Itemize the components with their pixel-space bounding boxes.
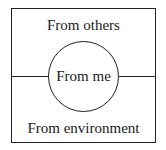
label-from-others: From others [11,17,156,33]
label-from-me: From me [48,68,119,84]
divider-right [119,76,156,77]
divider-left [11,76,49,77]
label-from-environment: From environment [11,120,156,136]
